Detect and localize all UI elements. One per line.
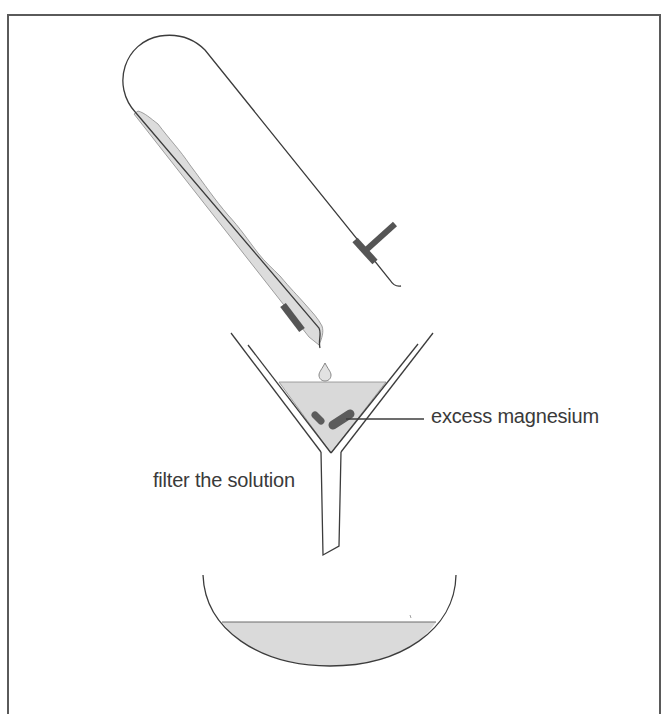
evaporating-basin bbox=[203, 575, 456, 666]
filter-funnel bbox=[231, 333, 433, 555]
funnel-stem bbox=[321, 452, 341, 555]
test-tube-liquid bbox=[134, 111, 323, 345]
liquid-drop bbox=[319, 363, 331, 381]
test-tube bbox=[123, 35, 401, 348]
label-filter-the-solution: filter the solution bbox=[153, 469, 295, 492]
label-excess-magnesium: excess magnesium bbox=[431, 405, 599, 428]
test-tube-outline bbox=[123, 35, 401, 348]
basin-liquid bbox=[222, 622, 436, 666]
test-tube-holder-clamp bbox=[355, 224, 395, 262]
